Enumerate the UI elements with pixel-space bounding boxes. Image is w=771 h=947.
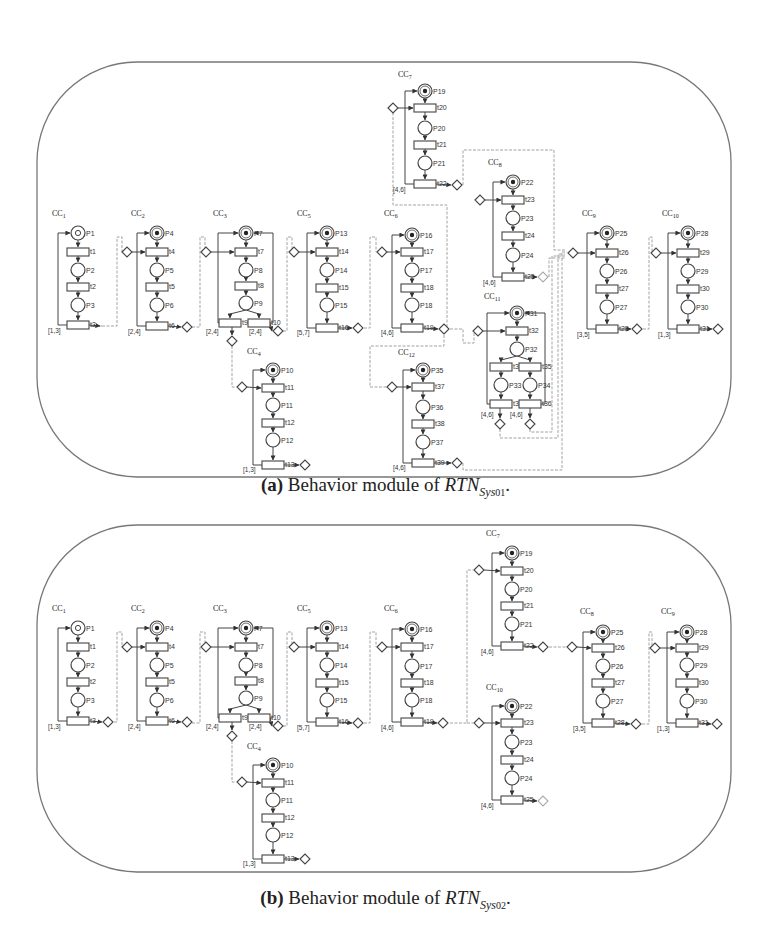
- arc: [517, 356, 530, 362]
- transition-label: t12: [285, 814, 295, 821]
- transition-label: t4: [169, 643, 175, 650]
- transition-t12: [262, 419, 284, 427]
- input-arc: [577, 647, 591, 648]
- component-label: CC1: [52, 209, 66, 219]
- component-cc8: CC8P22P23P24t23t24t25[4,6]: [475, 158, 548, 287]
- connector-line: [102, 237, 122, 326]
- time-interval-label: [4,6]: [483, 279, 496, 287]
- place-label: P21: [520, 621, 533, 628]
- token-icon: [510, 551, 514, 555]
- component-cc10: CC10P22P23P24t23t24t25[4,6]: [474, 683, 548, 810]
- loop-arc: [218, 628, 238, 718]
- component-cc12: CC12P35P36P37t37t38t39[4,6]: [387, 348, 462, 472]
- output-port-icon: [713, 324, 723, 334]
- place-p14: [320, 658, 334, 672]
- place-label: P6: [165, 697, 174, 704]
- caption-b-period: .: [506, 887, 511, 908]
- component-cc6: CC6P16P17P18t17t18t19[4,6]: [377, 209, 449, 337]
- caption-b-sub: Sys02: [480, 898, 506, 912]
- time-interval-label: [2,4]: [128, 723, 141, 731]
- caption-a-sub-text: Sys: [479, 485, 495, 499]
- caption-a-sub-num: 01: [495, 487, 505, 498]
- token-icon: [271, 763, 275, 767]
- transition-t28: [596, 325, 618, 333]
- transition-label: t23: [525, 196, 535, 203]
- panels-layer: CC1P1P2P3t1t2t3[1,3]CC2P4P5P6t4t5t6[2,4]…: [37, 62, 731, 872]
- transition-t29: [676, 644, 698, 652]
- input-port-icon: [475, 195, 485, 205]
- transition-t24: [501, 756, 523, 764]
- token-icon: [410, 233, 414, 237]
- input-port-icon: [473, 326, 483, 336]
- place-p20: [505, 582, 519, 596]
- place-label: P22: [521, 179, 534, 186]
- token-icon: [325, 626, 329, 630]
- input-port-icon: [568, 248, 578, 258]
- component-cc10: CC10P28P29P30t29t30t31[1,3]: [651, 209, 723, 339]
- place-p30: [680, 694, 694, 708]
- token-icon: [421, 368, 425, 372]
- transition-label: t21: [524, 602, 534, 609]
- time-interval-label: [4,6]: [510, 411, 523, 419]
- component-cc11: CC11P31P32P33P34t32t33t35t34t36[4,6][4,6…: [473, 292, 552, 429]
- input-port-icon: [388, 103, 398, 113]
- place-p29: [680, 658, 694, 672]
- place-label: P33: [509, 382, 522, 389]
- token-icon: [510, 704, 514, 708]
- place-p3: [71, 693, 85, 707]
- input-arc: [247, 387, 261, 388]
- component-label: CC8: [580, 607, 594, 617]
- input-port-icon: [201, 247, 211, 257]
- arc: [501, 356, 517, 362]
- component-label: CC1: [52, 604, 66, 614]
- transition-label: t20: [524, 567, 534, 574]
- place-p18: [405, 298, 419, 312]
- output-port-icon: [538, 272, 548, 282]
- output-port-icon: [452, 180, 462, 190]
- output-port-icon: [103, 717, 113, 727]
- output-port-icon: [353, 323, 363, 333]
- connector-line: [549, 258, 565, 277]
- transition-t19: [401, 324, 423, 332]
- place-label: P30: [696, 304, 709, 311]
- transition-t5: [146, 678, 168, 686]
- place-label: P19: [433, 88, 446, 95]
- place-p5: [150, 658, 164, 672]
- time-interval-label: [4,6]: [481, 802, 494, 810]
- token-icon: [686, 231, 690, 235]
- transition-label: t29: [700, 249, 710, 256]
- connector-line: [232, 741, 236, 782]
- time-interval-label: [2,4]: [206, 328, 219, 336]
- token-icon: [511, 180, 515, 184]
- loop-arc: [137, 628, 149, 721]
- caption-a-tag: (a): [261, 474, 283, 495]
- loop-arc: [58, 628, 70, 721]
- transition-label: t25: [524, 796, 534, 803]
- caption-a: (a) Behavior module of RTNSys01.: [0, 474, 771, 500]
- transition-label: t5: [169, 678, 175, 685]
- transition-t13: [262, 461, 284, 469]
- place-label: P12: [281, 437, 294, 444]
- component-cc3: CC3P7P8P9t7t8t9t10[2,4][2,4]: [201, 209, 283, 346]
- component-label: CC5: [297, 604, 311, 614]
- component-label: CC9: [661, 607, 675, 617]
- place-label: P17: [420, 267, 433, 274]
- transition-t22: [414, 180, 436, 188]
- output-port-icon: [438, 718, 448, 728]
- token-icon: [325, 231, 329, 235]
- loop-arc: [254, 233, 273, 323]
- output-port-icon: [495, 419, 505, 429]
- transition-label: t37: [435, 383, 445, 390]
- place-label: P18: [420, 302, 433, 309]
- transition-t32: [506, 327, 528, 335]
- input-port-icon: [122, 642, 132, 652]
- transition-t35: [519, 363, 541, 371]
- place-label: P20: [520, 586, 533, 593]
- output-port-icon: [300, 460, 310, 470]
- component-cc9: CC9P25P26P27t26t27t28[3,5]: [568, 209, 642, 339]
- place-p3: [71, 298, 85, 312]
- place-p11: [266, 793, 280, 807]
- place-label: P35: [431, 367, 444, 374]
- place-label: P16: [420, 626, 433, 633]
- transition-label: t31: [699, 719, 709, 726]
